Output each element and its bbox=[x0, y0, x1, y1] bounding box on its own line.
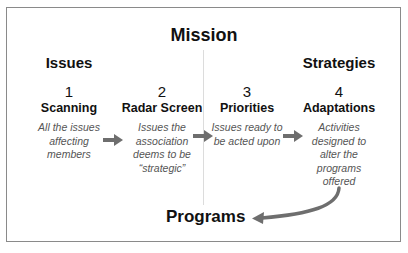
arrow-right-icon bbox=[103, 134, 123, 146]
curved-arrow-icon bbox=[252, 188, 339, 224]
arrow-right-icon bbox=[283, 130, 303, 142]
flow-arrows bbox=[0, 0, 408, 253]
arrow-right-icon bbox=[193, 130, 213, 142]
